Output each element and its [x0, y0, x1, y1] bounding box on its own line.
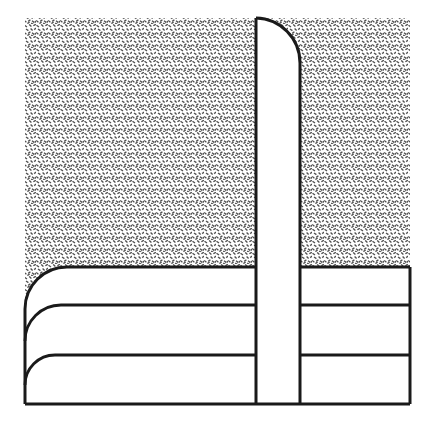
stippled-upper-field: [25, 18, 410, 267]
technical-drawing-canvas: [0, 0, 434, 426]
vertical-white-channel: [255, 18, 300, 404]
figure-root: Cross-sectional technical line drawing: [0, 0, 434, 426]
